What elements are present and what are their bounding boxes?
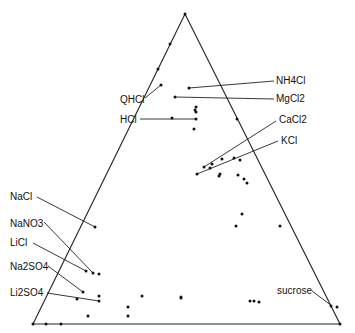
leader-line [312, 291, 332, 306]
data-point [184, 13, 187, 16]
triangle-outline [33, 14, 340, 324]
leader-line [48, 266, 83, 292]
data-point [60, 323, 63, 326]
data-point [237, 174, 240, 177]
leader-line [47, 293, 99, 301]
data-point [249, 300, 252, 303]
compound-label: QHCl [120, 94, 144, 105]
data-point [127, 306, 130, 309]
compound-labels: NH4ClMgCl2QHClHClCaCl2KClNaClNaNO3LiClNa… [10, 75, 312, 298]
data-point [330, 305, 333, 308]
compound-label: MgCl2 [276, 93, 305, 104]
data-point [180, 297, 183, 300]
data-point [160, 84, 163, 87]
data-point [195, 118, 198, 121]
data-point [219, 173, 222, 176]
data-point [174, 96, 177, 99]
compound-label: NaCl [10, 191, 32, 202]
data-point [221, 158, 224, 161]
data-point [253, 300, 256, 303]
data-point [171, 117, 174, 120]
data-point [195, 106, 198, 109]
leader-line [189, 81, 274, 88]
data-point [45, 323, 48, 326]
data-point [82, 291, 85, 294]
data-point [76, 298, 79, 301]
compound-label: HCl [120, 114, 137, 125]
data-point [203, 166, 206, 169]
data-point [239, 159, 242, 162]
data-point [339, 323, 342, 326]
data-point [85, 270, 88, 273]
compound-label: Na2SO4 [10, 261, 49, 272]
data-points [32, 13, 342, 326]
data-point [98, 273, 101, 276]
leader-line [44, 222, 93, 273]
data-point [209, 167, 212, 170]
data-point [211, 163, 214, 166]
data-point [243, 178, 246, 181]
data-point [236, 118, 239, 121]
data-point [241, 213, 244, 216]
data-point [233, 157, 236, 160]
data-point [141, 295, 144, 298]
compound-label: LiCl [10, 237, 27, 248]
data-point [92, 272, 95, 275]
leader-line [175, 97, 274, 99]
data-point [157, 68, 160, 71]
ternary-diagram: NH4ClMgCl2QHClHClCaCl2KClNaClNaNO3LiClNa… [0, 0, 355, 333]
data-point [32, 323, 35, 326]
data-point [169, 43, 172, 46]
compound-label: Li2SO4 [10, 287, 44, 298]
data-point [98, 295, 101, 298]
data-point [336, 306, 339, 309]
compound-label: sucrose [277, 285, 312, 296]
leader-line [37, 197, 95, 227]
data-point [98, 300, 101, 303]
triangle-axes [33, 14, 340, 324]
compound-label: NH4Cl [276, 75, 305, 86]
compound-label: KCl [281, 135, 297, 146]
data-point [279, 225, 282, 228]
data-point [127, 315, 130, 318]
data-point [235, 225, 238, 228]
data-point [87, 315, 90, 318]
data-point [94, 226, 97, 229]
data-point [195, 111, 198, 114]
data-point [188, 87, 191, 90]
data-point [246, 182, 249, 185]
data-point [193, 128, 196, 131]
compound-label: CaCl2 [279, 114, 307, 125]
data-point [196, 173, 199, 176]
compound-label: NaNO3 [10, 218, 44, 229]
data-point [258, 301, 261, 304]
